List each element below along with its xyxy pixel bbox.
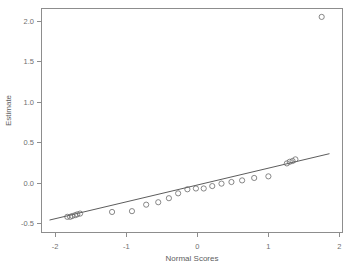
x-tick-label: 1 — [266, 242, 270, 251]
y-tick-label: -0.5 — [8, 219, 34, 228]
x-tick-mark — [126, 233, 127, 237]
x-tick-mark — [55, 233, 56, 237]
x-tick-label: -2 — [52, 242, 59, 251]
normal-probability-plot: Normal Scores Estimate -0.50.00.51.01.52… — [0, 0, 355, 273]
y-axis-title: Estimate — [4, 79, 13, 143]
y-tick-label: 1.5 — [8, 57, 34, 66]
x-tick-mark — [197, 233, 198, 237]
y-tick-label: 0.0 — [8, 178, 34, 187]
y-tick-mark — [37, 183, 41, 184]
y-tick-mark — [37, 142, 41, 143]
y-tick-label: 1.0 — [8, 97, 34, 106]
x-tick-mark — [268, 233, 269, 237]
y-tick-mark — [37, 21, 41, 22]
x-tick-mark — [339, 233, 340, 237]
x-tick-label: -1 — [123, 242, 130, 251]
y-tick-mark — [37, 223, 41, 224]
plot-frame — [41, 8, 343, 233]
x-tick-label: 2 — [337, 242, 341, 251]
x-axis-title: Normal Scores — [41, 254, 343, 263]
chart-title — [40, 0, 343, 3]
y-tick-mark — [37, 102, 41, 103]
x-tick-label: 0 — [195, 242, 199, 251]
y-tick-label: 2.0 — [8, 16, 34, 25]
y-tick-mark — [37, 61, 41, 62]
y-tick-label: 0.5 — [8, 138, 34, 147]
